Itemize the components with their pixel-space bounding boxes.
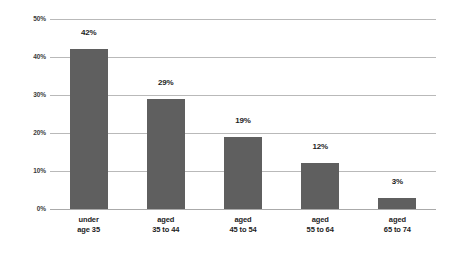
x-tick-line-1: aged (127, 215, 204, 225)
bar-value-label: 3% (392, 178, 403, 186)
y-tick-label: 30% (2, 92, 46, 99)
bar-value-label: 42% (81, 29, 96, 37)
x-tick-line-1: aged (359, 215, 436, 225)
y-tick-label: 50% (2, 16, 46, 23)
x-tick-line-2: 55 to 64 (282, 225, 359, 235)
bar-aged-65-to-74[interactable] (378, 198, 416, 209)
y-tick-label: 0% (2, 206, 46, 213)
bar-value-label: 29% (158, 79, 173, 87)
x-tick-line-1: aged (204, 215, 281, 225)
x-tick-under-age-35: under age 35 (50, 215, 127, 235)
y-tick-label: 40% (2, 54, 46, 61)
bar-value-label: 12% (312, 143, 327, 151)
bar-under-age-35[interactable] (70, 49, 108, 209)
x-tick-line-2: age 35 (50, 225, 127, 235)
x-tick-line-2: 35 to 44 (127, 225, 204, 235)
bar-slot-aged-55-to-64: 12% (282, 19, 359, 209)
x-tick-line-2: 65 to 74 (359, 225, 436, 235)
bar-aged-55-to-64[interactable] (301, 163, 339, 209)
x-tick-aged-35-to-44: aged 35 to 44 (127, 215, 204, 235)
bar-aged-45-to-54[interactable] (224, 137, 262, 209)
x-tick-aged-65-to-74: aged 65 to 74 (359, 215, 436, 235)
y-tick-label: 10% (2, 168, 46, 175)
bar-value-label: 19% (235, 117, 250, 125)
bar-slot-aged-35-to-44: 29% (127, 19, 204, 209)
x-tick-line-1: aged (282, 215, 359, 225)
bar-slot-under-age-35: 42% (50, 19, 127, 209)
bar-slot-aged-65-to-74: 3% (359, 19, 436, 209)
x-tick-line-2: 45 to 54 (204, 225, 281, 235)
gridline-0-baseline (50, 209, 436, 210)
x-tick-aged-45-to-54: aged 45 to 54 (204, 215, 281, 235)
y-axis: 50% 40% 30% 20% 10% 0% (0, 19, 46, 209)
x-tick-aged-55-to-64: aged 55 to 64 (282, 215, 359, 235)
x-tick-line-1: under (50, 215, 127, 225)
bar-slot-aged-45-to-54: 19% (204, 19, 281, 209)
bar-chart: 50% 40% 30% 20% 10% 0% 42% 29% 19% 12% (0, 0, 457, 258)
x-axis: under age 35 aged 35 to 44 aged 45 to 54… (50, 215, 436, 255)
bar-aged-35-to-44[interactable] (147, 99, 185, 209)
y-tick-label: 20% (2, 130, 46, 137)
bars-layer: 42% 29% 19% 12% 3% (50, 19, 436, 209)
